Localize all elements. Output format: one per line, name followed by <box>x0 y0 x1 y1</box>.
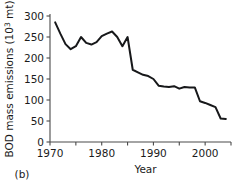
panel-label: (b) <box>15 168 30 180</box>
y-tick-label: 100 <box>24 94 44 106</box>
x-tick-label: 1990 <box>140 147 167 159</box>
y-tick-label: 300 <box>24 10 44 22</box>
x-axis-title: Year <box>133 163 157 175</box>
bod-emissions-line-chart: 0501001502002503001970198019902000YearBO… <box>0 0 236 190</box>
figure-panel-b: 0501001502002503001970198019902000YearBO… <box>0 0 236 190</box>
x-tick-label: 2000 <box>192 147 219 159</box>
y-tick-label: 250 <box>24 31 44 43</box>
y-tick-label: 150 <box>24 73 44 85</box>
y-axis-title: BOD mass emissions (103 mt) <box>3 0 15 157</box>
y-tick-label: 200 <box>24 52 44 64</box>
y-tick-label: 50 <box>31 115 44 127</box>
data-series-line <box>55 22 226 119</box>
x-tick-label: 1980 <box>88 147 115 159</box>
x-tick-label: 1970 <box>37 147 64 159</box>
